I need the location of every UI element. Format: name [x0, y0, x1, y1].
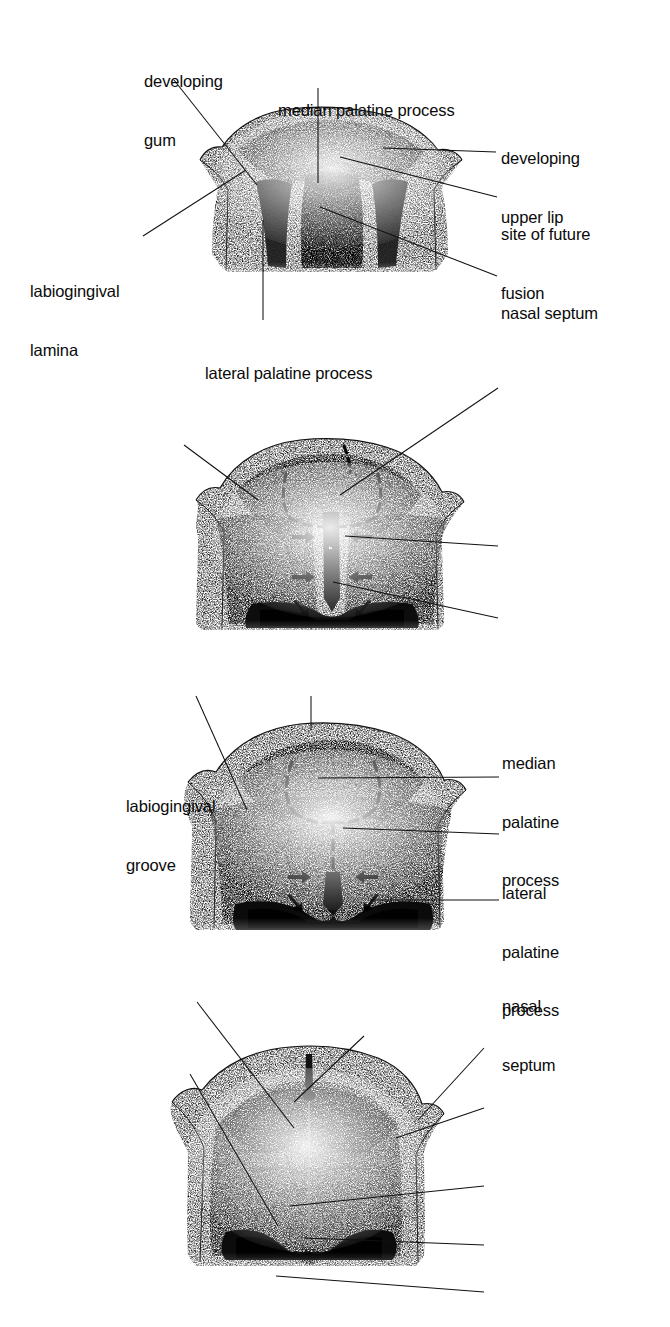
panel-3: gum philtrum primary palate secondary pa… [0, 660, 670, 960]
label-median-palatine-process: median palatine process [278, 62, 455, 160]
label-line: median palatine process [278, 101, 455, 121]
label-line: nasal septum [501, 304, 598, 324]
label-line: developing [144, 72, 223, 92]
label-nasal-septum: nasal septum [501, 265, 598, 363]
label-developing-gum: developing gum [144, 33, 223, 189]
palate-drawing-stage-4 [171, 1046, 444, 1272]
panel-3-illustration [0, 660, 670, 960]
panel-2-illustration [0, 350, 670, 660]
panel-4: frenulum hard palate incisive papilla up… [0, 960, 670, 1327]
figure-root: developing gum median palatine process d… [0, 0, 670, 1327]
panel-2: labiogingival groove median palatine pro… [0, 350, 670, 660]
palate-drawing-stage-2 [196, 439, 464, 634]
palate-drawing-stage-3 [184, 723, 466, 934]
label-line: gum [144, 131, 223, 151]
panel-4-illustration [0, 960, 670, 1327]
panel-1: developing gum median palatine process d… [0, 0, 670, 350]
label-line: site of future [501, 225, 590, 245]
label-line: labiogingival [30, 282, 120, 302]
label-line: developing [501, 149, 580, 169]
